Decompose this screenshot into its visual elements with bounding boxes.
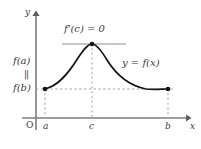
x-axis-label: x: [190, 122, 195, 131]
y-value-equality-symbol: ||: [24, 70, 28, 79]
y-axis-arrow: [32, 11, 39, 17]
x-tick-label-b: b: [165, 122, 171, 131]
derivative-annotation: f'(c) = 0: [64, 24, 105, 34]
rolles-theorem-figure: y x O a c b f(a) || f(b) f'(c) = 0 y = f…: [0, 0, 201, 149]
x-tick-label-a: a: [43, 122, 48, 131]
point-a: [43, 87, 48, 92]
function-annotation: y = f(x): [122, 58, 160, 68]
y-axis-label: y: [25, 8, 30, 17]
y-value-label-fb: f(b): [13, 83, 31, 93]
y-value-label-fa: f(a): [13, 56, 30, 66]
point-c: [90, 42, 95, 47]
origin-label: O: [26, 121, 33, 130]
point-b: [166, 87, 171, 92]
x-tick-label-c: c: [89, 122, 94, 131]
